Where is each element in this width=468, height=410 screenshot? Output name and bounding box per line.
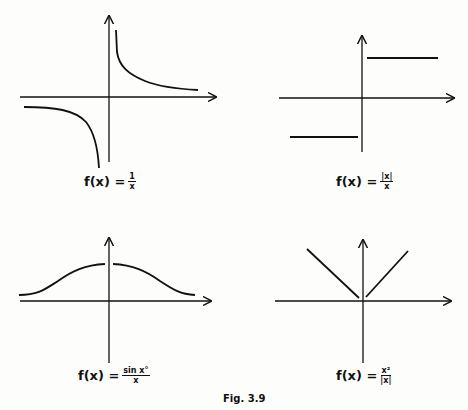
label-sinc-degrees: f(x) = sin x° x [78, 366, 150, 385]
label-abs-like: f(x) = x² |x| [336, 366, 391, 385]
denominator: x [130, 182, 135, 191]
figure-canvas [0, 0, 468, 410]
label-sign: f(x) = |x| x [336, 172, 393, 191]
label-lhs: f(x) = [336, 368, 377, 383]
panel-sinc-degrees [19, 238, 211, 363]
label-lhs: f(x) = [336, 174, 377, 189]
fraction: |x| x [380, 172, 393, 191]
label-lhs: f(x) = [78, 368, 119, 383]
numerator: 1 [128, 172, 136, 182]
fraction: 1 x [128, 172, 136, 191]
denominator: x [384, 182, 389, 191]
label-reciprocal: f(x) = 1 x [84, 172, 136, 191]
label-lhs: f(x) = [84, 174, 125, 189]
curve-left [19, 264, 105, 295]
fraction: sin x° x [122, 366, 149, 385]
panel-sign [279, 36, 454, 152]
numerator: |x| [380, 172, 393, 182]
panel-abs-like [275, 240, 451, 363]
denominator: x [133, 376, 138, 385]
curve-lower-branch [24, 107, 99, 168]
figure-caption: Fig. 3.9 [223, 393, 265, 404]
left-ray [307, 249, 359, 298]
right-ray [366, 251, 408, 297]
curve-upper-branch [116, 30, 198, 90]
numerator: x² [381, 366, 392, 376]
fraction: x² |x| [380, 366, 391, 385]
numerator: sin x° [122, 366, 149, 376]
panel-reciprocal [20, 16, 216, 168]
curve-right [113, 264, 195, 295]
denominator: |x| [380, 376, 391, 385]
